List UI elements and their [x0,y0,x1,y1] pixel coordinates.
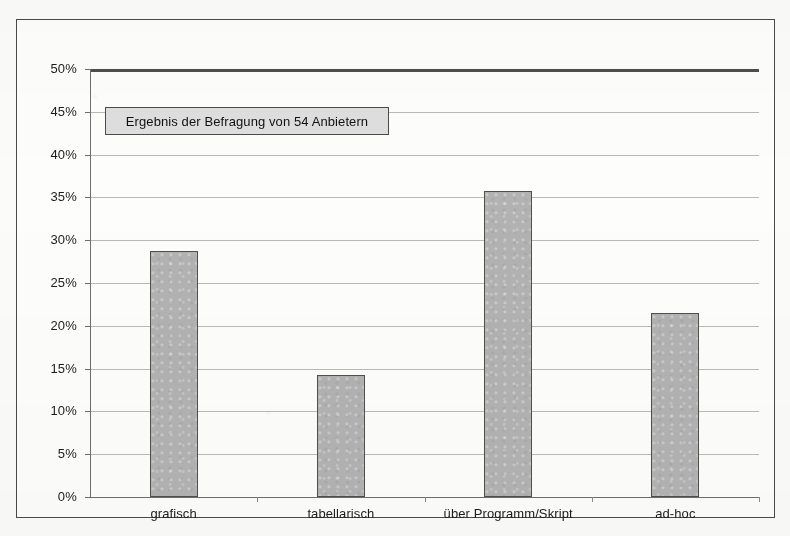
y-axis-tick-label: 0% [17,490,77,503]
x-axis-label: ad-hoc [565,507,785,520]
bar [150,251,198,497]
gridline-35 [90,197,759,198]
y-axis-tick-label: 25% [17,276,77,289]
y-axis-tick-label: 50% [17,62,77,75]
gridline-30 [90,240,759,241]
y-axis-tick-label: 15% [17,362,77,375]
y-axis-tick [85,497,91,498]
x-axis-tick [592,497,593,502]
y-axis-tick-label: 10% [17,404,77,417]
x-axis-tick [759,497,760,502]
bar [317,375,365,497]
bar [484,191,532,497]
y-axis-tick-label: 40% [17,148,77,161]
chart-page: 0%5%10%15%20%25%30%35%40%45%50% grafisch… [0,0,790,536]
gridline-40 [90,155,759,156]
y-axis-tick-label: 35% [17,190,77,203]
annotation-box: Ergebnis der Befragung von 54 Anbietern [105,107,389,135]
y-axis-tick-label: 5% [17,447,77,460]
y-axis-line [90,69,91,497]
chart-frame: 0%5%10%15%20%25%30%35%40%45%50% grafisch… [16,19,775,518]
y-axis-tick-label: 20% [17,319,77,332]
x-axis-tick [425,497,426,502]
annotation-text: Ergebnis der Befragung von 54 Anbietern [126,114,368,129]
gridline-50 [90,69,759,72]
y-axis-tick-label: 45% [17,105,77,118]
x-axis-tick [257,497,258,502]
y-axis-tick-label: 30% [17,233,77,246]
bar [651,313,699,497]
